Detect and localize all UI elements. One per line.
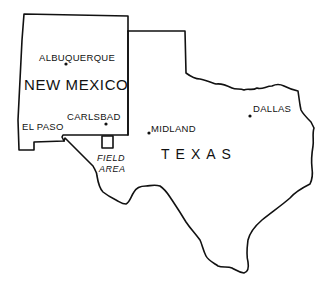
dallas-dot (248, 114, 251, 117)
field-area-label-line2: AREA (98, 164, 126, 174)
map-canvas: ALBUQUERQUE NEW MEXICO CARLSBAD EL PASO … (0, 0, 330, 289)
midland-label: MIDLAND (151, 123, 196, 134)
new-mexico-label: NEW MEXICO (24, 76, 128, 93)
texas-label: TEXAS (161, 146, 237, 162)
field-area-label-line1: FIELD (97, 153, 125, 163)
dallas-label: DALLAS (253, 103, 291, 114)
el-paso-label: EL PASO (22, 121, 64, 132)
field-area-box (102, 136, 113, 148)
carlsbad-label: CARLSBAD (67, 111, 121, 122)
location-map: ALBUQUERQUE NEW MEXICO CARLSBAD EL PASO … (0, 0, 330, 289)
carlsbad-dot (104, 122, 107, 125)
albuquerque-label: ALBUQUERQUE (39, 52, 115, 63)
